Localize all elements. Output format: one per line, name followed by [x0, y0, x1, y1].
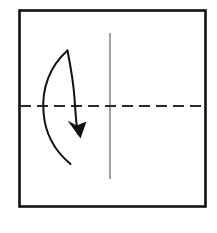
paper-sheet-border [20, 11, 206, 207]
fold-diagram-svg: Origami fold step diagram [0, 0, 217, 233]
fold-diagram-canvas: Origami fold step diagram [0, 0, 217, 233]
